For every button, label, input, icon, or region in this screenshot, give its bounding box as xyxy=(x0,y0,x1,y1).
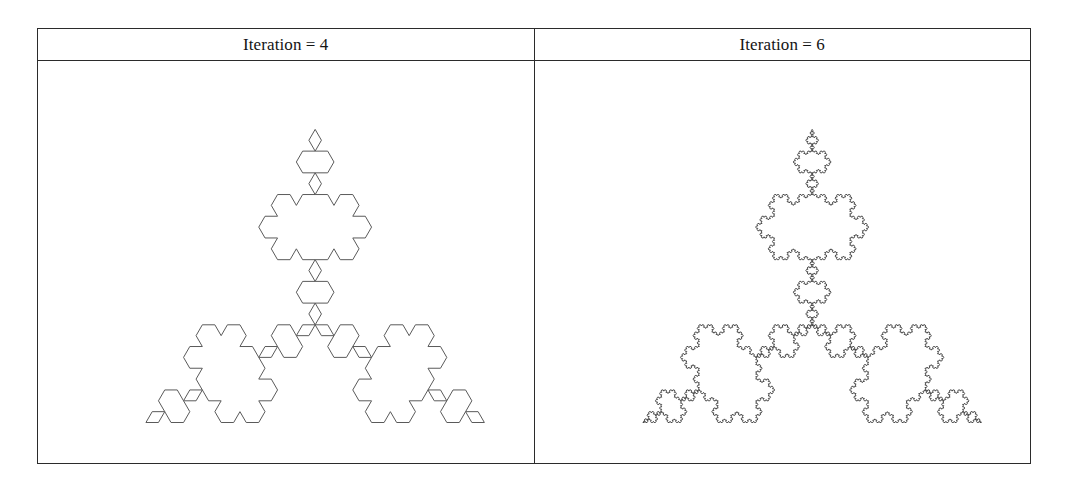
koch-snowflake-path-6 xyxy=(642,129,980,422)
header-row: Iteration = 4 Iteration = 6 xyxy=(38,29,1031,61)
koch-snowflake-svg-left xyxy=(38,61,534,463)
header-iteration-4: Iteration = 4 xyxy=(38,29,535,61)
koch-snowflake-iteration-6 xyxy=(534,61,1031,464)
figure-row xyxy=(38,61,1031,464)
koch-snowflake-svg-right xyxy=(535,61,1031,463)
figure-table: Iteration = 4 Iteration = 6 xyxy=(37,28,1031,464)
koch-snowflake-path-4 xyxy=(146,129,484,422)
koch-snowflake-iteration-4 xyxy=(38,61,535,464)
header-iteration-6: Iteration = 6 xyxy=(534,29,1031,61)
